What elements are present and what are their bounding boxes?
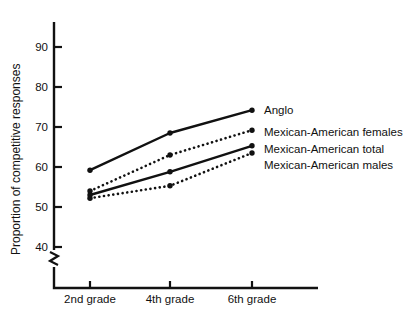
data-point (167, 169, 172, 174)
series-label-mexican-american-females: Mexican-American females (264, 126, 403, 138)
y-axis-title: Proportion of competitive responses (9, 64, 23, 255)
series-label-anglo: Anglo (264, 104, 293, 116)
y-tick-label-90: 90 (35, 41, 48, 53)
data-point (87, 196, 92, 201)
y-tick-label-40: 40 (35, 241, 48, 253)
x-tick-label-6th-grade: 6th grade (228, 293, 277, 305)
data-point (87, 168, 92, 173)
chart-container: 40 50 60 70 80 90 Proportion of competit… (0, 0, 420, 319)
data-point (167, 130, 172, 135)
series-label-mexican-american-males: Mexican-American males (264, 159, 393, 171)
data-point (167, 152, 172, 157)
x-tick-label-2nd-grade: 2nd grade (64, 293, 116, 305)
series-label-mexican-american-total: Mexican-American total (264, 143, 384, 155)
x-tick-label-4th-grade: 4th grade (146, 293, 195, 305)
line-chart: 40 50 60 70 80 90 Proportion of competit… (0, 0, 420, 319)
y-tick-label-70: 70 (35, 121, 48, 133)
y-tick-label-50: 50 (35, 201, 48, 213)
y-tick-label-80: 80 (35, 81, 48, 93)
y-tick-label-60: 60 (35, 161, 48, 173)
data-point (167, 183, 172, 188)
